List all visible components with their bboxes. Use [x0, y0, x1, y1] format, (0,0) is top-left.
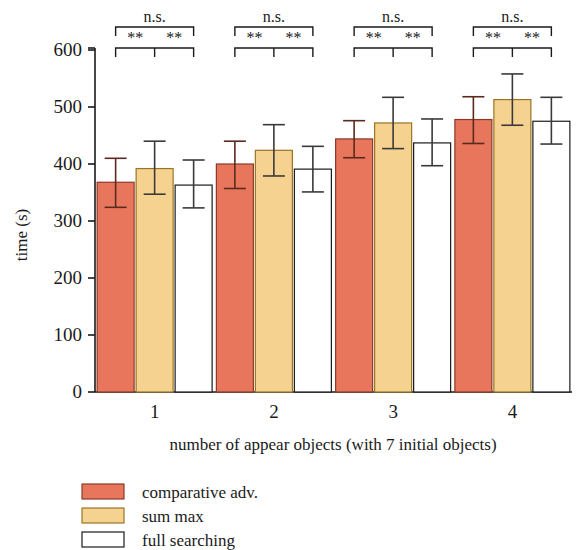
- y-tick-label: 100: [54, 324, 83, 345]
- sig-label-ns: n.s.: [263, 8, 285, 25]
- sig-label-stars-left: **: [366, 29, 382, 46]
- sig-label-stars-left: **: [127, 29, 143, 46]
- bar: [336, 139, 373, 392]
- x-tick-label: 3: [388, 401, 398, 422]
- bar: [255, 150, 292, 392]
- legend-swatch: [82, 532, 124, 547]
- sig-label-stars-right: **: [524, 29, 540, 46]
- sig-label-stars-left: **: [246, 29, 262, 46]
- bar: [97, 182, 134, 392]
- y-tick-label: 600: [54, 39, 83, 60]
- y-axis-title: time (s): [12, 209, 31, 261]
- chart-canvas: 0100200300400500600 time (s) 1234 number…: [0, 0, 581, 550]
- legend-label: comparative adv.: [142, 483, 258, 502]
- bar: [136, 169, 173, 392]
- legend-item: sum max: [82, 507, 204, 526]
- y-tick-label: 400: [54, 153, 83, 174]
- bar: [375, 123, 412, 392]
- legend-item: full searching: [82, 531, 235, 550]
- y-tick-label: 500: [54, 96, 83, 117]
- x-tick-label: 4: [508, 401, 518, 422]
- sig-label-ns: n.s.: [501, 8, 523, 25]
- sig-label-stars-left: **: [485, 29, 501, 46]
- sig-label-stars-right: **: [285, 29, 301, 46]
- y-tick-label: 200: [54, 267, 83, 288]
- bar: [455, 120, 492, 392]
- x-tick-label: 2: [269, 401, 279, 422]
- sig-label-ns: n.s.: [382, 8, 404, 25]
- bar: [216, 164, 253, 392]
- y-tick-label: 300: [54, 210, 83, 231]
- bar: [414, 143, 451, 392]
- legend-label: full searching: [142, 531, 235, 550]
- bar: [294, 169, 331, 392]
- bar: [533, 121, 570, 392]
- bar: [494, 100, 531, 392]
- legend-label: sum max: [142, 507, 204, 526]
- legend-item: comparative adv.: [82, 483, 258, 502]
- bar: [175, 185, 212, 392]
- sig-label-ns: n.s.: [144, 8, 166, 25]
- x-tick-label: 1: [150, 401, 160, 422]
- sig-label-stars-right: **: [405, 29, 421, 46]
- x-axis-title: number of appear objects (with 7 initial…: [169, 435, 496, 454]
- legend-swatch: [82, 484, 124, 499]
- y-tick-label: 0: [73, 381, 83, 402]
- legend-swatch: [82, 508, 124, 523]
- bar-chart-figure: 0100200300400500600 time (s) 1234 number…: [0, 0, 581, 550]
- sig-label-stars-right: **: [166, 29, 182, 46]
